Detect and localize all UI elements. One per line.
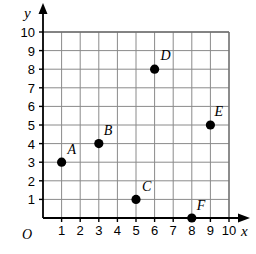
point-label-f: F <box>196 198 206 213</box>
y-tick-2: 2 <box>28 174 35 189</box>
y-tick-5: 5 <box>28 118 35 133</box>
x-tick-5: 5 <box>132 223 139 238</box>
grid-lines <box>43 32 229 218</box>
x-axis-label: x <box>240 223 248 239</box>
x-tick-9: 9 <box>207 223 214 238</box>
point-e <box>206 120 215 129</box>
x-tick-3: 3 <box>95 223 102 238</box>
point-d <box>150 65 159 74</box>
point-f <box>187 213 196 222</box>
tick-marks <box>39 32 229 222</box>
x-tick-1: 1 <box>58 223 65 238</box>
x-tick-7: 7 <box>170 223 177 238</box>
y-tick-6: 6 <box>28 99 35 114</box>
y-tick-1: 1 <box>28 192 35 207</box>
x-tick-4: 4 <box>114 223 121 238</box>
y-tick-10: 10 <box>21 25 35 40</box>
y-tick-3: 3 <box>28 155 35 170</box>
y-axis-label: y <box>22 5 31 21</box>
y-tick-4: 4 <box>28 137 35 152</box>
point-label-d: D <box>160 48 171 63</box>
y-tick-7: 7 <box>28 81 35 96</box>
coordinate-plane-figure: 12345678910 12345678910 ABCDEF x y O <box>0 0 256 254</box>
point-label-b: B <box>104 123 113 138</box>
x-tick-2: 2 <box>77 223 84 238</box>
point-c <box>131 195 140 204</box>
y-axis-tick-labels: 12345678910 <box>21 25 35 207</box>
origin-label: O <box>22 227 32 242</box>
x-tick-10: 10 <box>222 223 236 238</box>
plotted-points: ABCDEF <box>57 48 223 222</box>
coordinate-plane-svg: 12345678910 12345678910 ABCDEF x y O <box>0 0 256 254</box>
point-label-a: A <box>67 142 77 157</box>
point-a <box>57 158 66 167</box>
y-tick-8: 8 <box>28 62 35 77</box>
x-axis-tick-labels: 12345678910 <box>58 223 236 238</box>
point-b <box>94 139 103 148</box>
x-tick-8: 8 <box>188 223 195 238</box>
point-label-c: C <box>142 179 152 194</box>
point-label-e: E <box>213 104 223 119</box>
x-tick-6: 6 <box>151 223 158 238</box>
y-tick-9: 9 <box>28 44 35 59</box>
